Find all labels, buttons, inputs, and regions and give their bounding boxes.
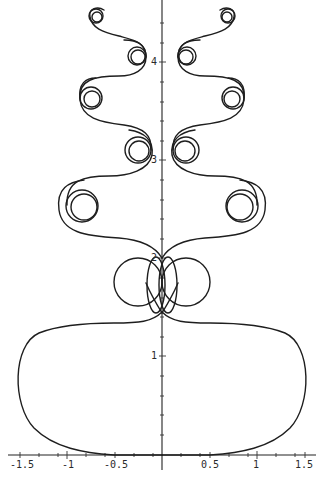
x-tick-label: 0.5 — [201, 460, 219, 470]
x-tick-label: 1 — [253, 460, 259, 470]
y-tick-label: 1 — [151, 351, 157, 361]
parametric-plot — [0, 0, 319, 490]
y-tick-label: 3 — [151, 155, 157, 165]
x-tick-label: 1.5 — [295, 460, 313, 470]
x-tick-label: -1.5 — [10, 460, 34, 470]
curve-left-branch — [18, 8, 165, 455]
y-tick-label: 4 — [151, 57, 157, 67]
y-tick-label: 2 — [151, 253, 157, 263]
curve-right-branch — [159, 8, 306, 455]
x-tick-label: -1 — [62, 460, 74, 470]
x-tick-label: -0.5 — [104, 460, 128, 470]
